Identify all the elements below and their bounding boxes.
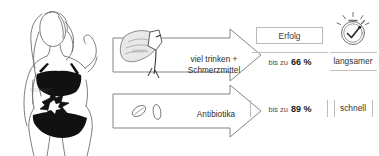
patient-illustration bbox=[6, 2, 110, 156]
antibiotics-speed-label: schnell bbox=[340, 103, 366, 113]
divider-success-top bbox=[252, 52, 328, 53]
success-header-box: Erfolg bbox=[256, 27, 323, 44]
divider-speed-bottom bbox=[330, 70, 377, 71]
hydration-label-line2: Schmerzmittel bbox=[188, 66, 241, 75]
antibiotics-percent: 89 % bbox=[291, 104, 312, 114]
female-torso-drawing bbox=[6, 2, 110, 156]
success-header-label: Erfolg bbox=[279, 31, 301, 41]
antibiotics-lead-text: bis zu bbox=[269, 105, 288, 114]
hydration-label-line1: viel trinken + bbox=[191, 55, 238, 64]
divider-speed-top bbox=[330, 52, 377, 53]
hydration-speed-label: langsamer bbox=[333, 56, 372, 66]
success-value-antibiotics: bis zu 89 % bbox=[252, 104, 328, 114]
treatment-label-antibiotics: Antibiotika bbox=[174, 110, 258, 121]
diagram-canvas: viel trinken + Schmerzmittel Antibiotika… bbox=[0, 0, 379, 156]
divider-89-left bbox=[250, 100, 251, 117]
treatment-label-hydration: viel trinken + Schmerzmittel bbox=[172, 55, 256, 76]
stopwatch-check-icon bbox=[332, 8, 374, 48]
briefs-shape bbox=[33, 112, 87, 138]
bra-shape bbox=[36, 63, 81, 96]
antibiotics-label: Antibiotika bbox=[197, 110, 235, 119]
speed-value-antibiotics: schnell bbox=[329, 103, 377, 113]
treatment-flow: viel trinken + Schmerzmittel Antibiotika bbox=[112, 28, 262, 146]
speed-value-hydration: langsamer bbox=[329, 56, 377, 66]
flow-arrows bbox=[112, 28, 262, 146]
hydration-percent: 66 % bbox=[291, 57, 312, 67]
hydration-lead-text: bis zu bbox=[269, 58, 288, 67]
success-value-hydration: bis zu 66 % bbox=[252, 57, 328, 67]
